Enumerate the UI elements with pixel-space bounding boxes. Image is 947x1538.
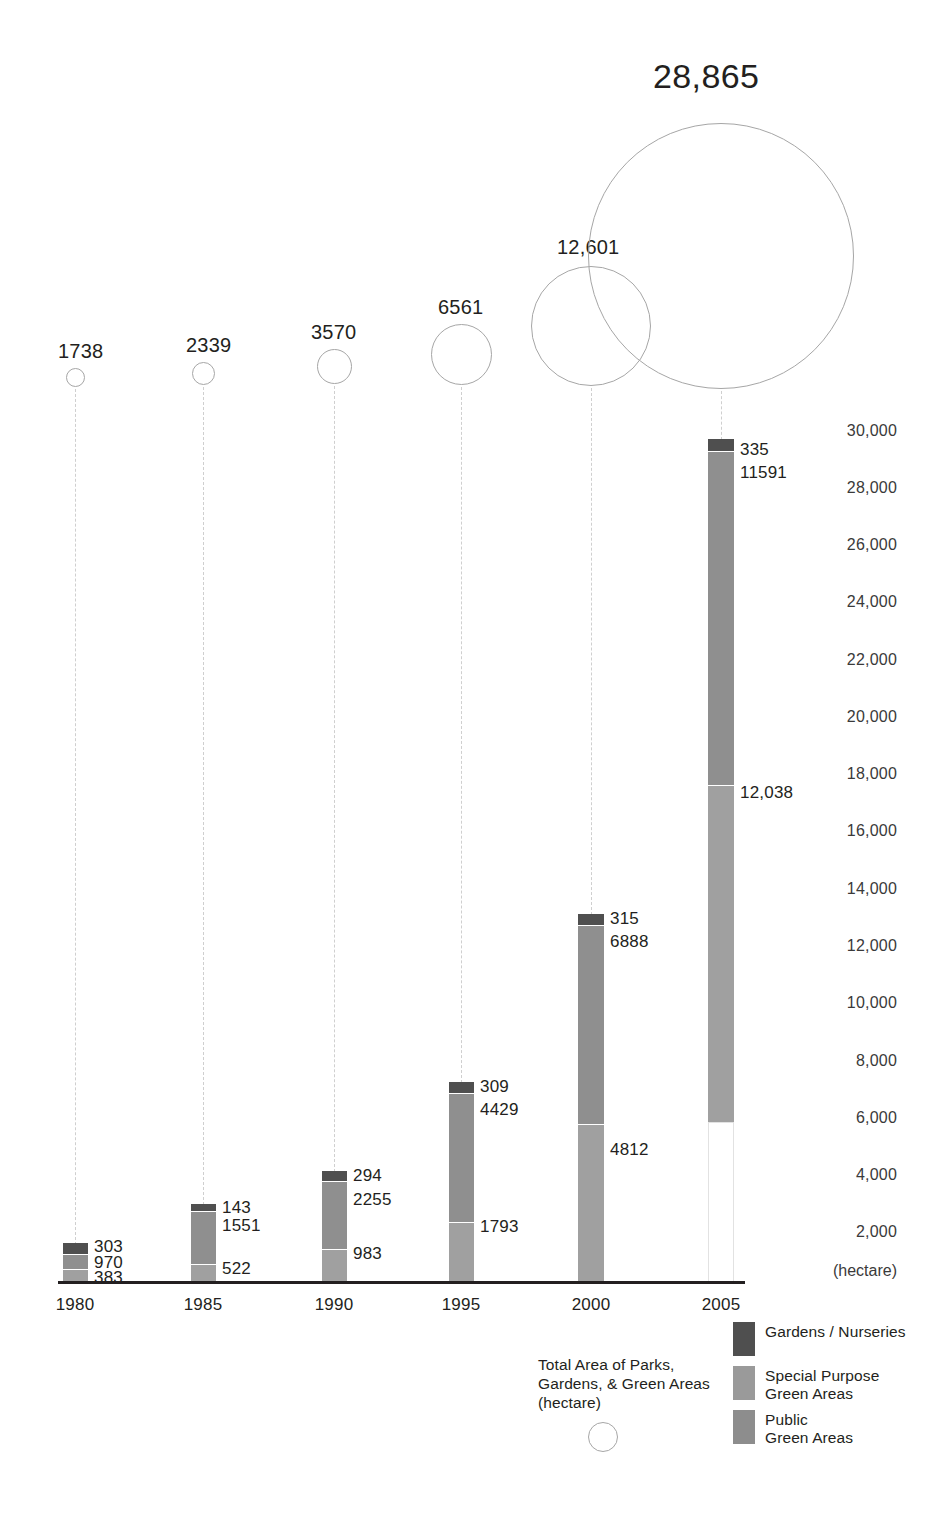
y-axis-tick-26000: 26,000 <box>847 536 897 554</box>
bar-segment-2005-mid <box>708 451 734 785</box>
legend-item: Public Green Areas <box>733 1410 906 1448</box>
bar-value-label-1995-mid: 4429 <box>480 1100 519 1120</box>
legend-label: Public Green Areas <box>765 1410 853 1447</box>
y-axis-tick-8000: 8,000 <box>856 1052 897 1070</box>
bar-segment-2005-hollow <box>708 1122 734 1282</box>
y-axis-tick-20000: 20,000 <box>847 708 897 726</box>
legend-item: Special Purpose Green Areas <box>733 1366 906 1404</box>
y-axis-tick-14000: 14,000 <box>847 880 897 898</box>
legend-label: Gardens / Nurseries <box>765 1322 906 1341</box>
x-axis-tick-1985: 1985 <box>163 1295 243 1315</box>
bar-segment-1995-dark <box>449 1082 474 1093</box>
bar-value-label-2005-light: 12,038 <box>740 783 793 803</box>
x-axis-tick-2000: 2000 <box>551 1295 631 1315</box>
bar-segment-1980-dark <box>63 1243 88 1254</box>
x-axis-line <box>58 1281 745 1284</box>
bar-value-label-1990-mid: 2255 <box>353 1190 392 1210</box>
series-legend: Gardens / NurseriesSpecial Purpose Green… <box>733 1322 906 1454</box>
legend-swatch-mid <box>733 1366 755 1400</box>
bar-segment-2000-mid <box>578 925 604 1124</box>
y-axis-unit-label: (hectare) <box>833 1262 897 1280</box>
y-axis-tick-2000: 2,000 <box>856 1223 897 1241</box>
bar-value-label-2000-light: 4812 <box>610 1140 649 1160</box>
bar-value-label-2000-mid: 6888 <box>610 932 649 952</box>
legend-swatch-dark <box>733 1322 755 1356</box>
y-axis-tick-18000: 18,000 <box>847 765 897 783</box>
legend-label: Special Purpose Green Areas <box>765 1366 879 1403</box>
bar-segment-2005-dark <box>708 439 734 451</box>
bar-value-label-1980-light: 383 <box>94 1268 123 1288</box>
bar-segment-1995-mid <box>449 1093 474 1222</box>
bar-segment-1985-light <box>191 1264 216 1282</box>
bar-segment-1995-light <box>449 1222 474 1282</box>
bubble-value-label-2005: 28,865 <box>653 57 759 96</box>
bar-value-label-1995-dark: 309 <box>480 1077 509 1097</box>
bar-segment-1990-light <box>322 1249 347 1282</box>
bar-value-label-1985-dark: 143 <box>222 1198 251 1218</box>
x-axis-tick-1995: 1995 <box>421 1295 501 1315</box>
y-axis-tick-4000: 4,000 <box>856 1166 897 1184</box>
y-axis-tick-28000: 28,000 <box>847 479 897 497</box>
y-axis-tick-10000: 10,000 <box>847 994 897 1012</box>
x-axis-tick-1990: 1990 <box>294 1295 374 1315</box>
bar-segment-2000-light <box>578 1124 604 1282</box>
bar-segment-1990-mid <box>322 1181 347 1249</box>
y-axis-tick-22000: 22,000 <box>847 651 897 669</box>
bar-value-label-1995-light: 1793 <box>480 1217 519 1237</box>
bar-value-label-1985-mid: 1551 <box>222 1216 261 1236</box>
bar-value-label-2005-dark: 335 <box>740 440 769 460</box>
bar-value-label-1990-dark: 294 <box>353 1166 382 1186</box>
bubble-legend: Total Area of Parks, Gardens, & Green Ar… <box>538 1355 728 1452</box>
x-axis-tick-2005: 2005 <box>681 1295 761 1315</box>
y-axis-tick-6000: 6,000 <box>856 1109 897 1127</box>
y-axis-tick-30000: 30,000 <box>847 422 897 440</box>
bar-value-label-2000-dark: 315 <box>610 909 639 929</box>
x-axis-tick-1980: 1980 <box>35 1295 115 1315</box>
bar-segment-1990-dark <box>322 1171 347 1181</box>
bar-segment-1985-mid <box>191 1211 216 1264</box>
y-axis-tick-16000: 16,000 <box>847 822 897 840</box>
y-axis-tick-12000: 12,000 <box>847 937 897 955</box>
bar-value-label-2005-mid: 11591 <box>740 463 787 483</box>
bar-value-label-1990-light: 983 <box>353 1244 382 1264</box>
chart-canvas: 173823393570656112,60128,865 30397038314… <box>0 0 947 1538</box>
bubble-legend-circle-icon <box>588 1422 618 1452</box>
y-axis-tick-24000: 24,000 <box>847 593 897 611</box>
bar-segment-2000-dark <box>578 914 604 925</box>
bubble-legend-text: Total Area of Parks, Gardens, & Green Ar… <box>538 1355 728 1412</box>
bar-segment-2005-light <box>708 785 734 1122</box>
legend-swatch-light <box>733 1410 755 1444</box>
legend-item: Gardens / Nurseries <box>733 1322 906 1360</box>
bar-segment-1985-dark <box>191 1204 216 1211</box>
bar-value-label-1985-light: 522 <box>222 1259 251 1279</box>
